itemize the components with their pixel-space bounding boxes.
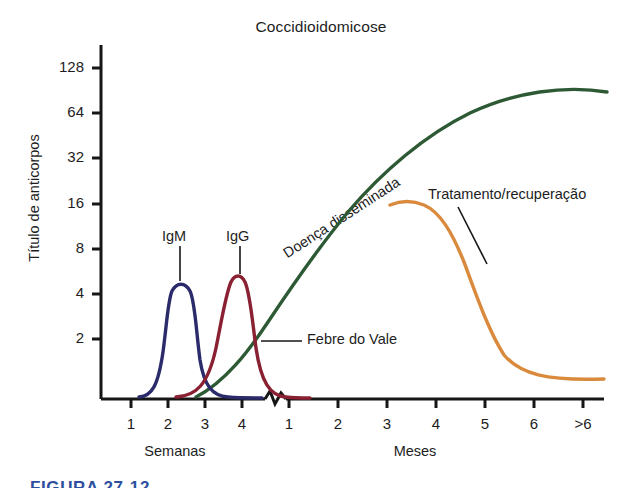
plot-area (0, 0, 642, 488)
curve-treatment (390, 201, 604, 379)
curve-igm (139, 284, 262, 398)
figure-caption-partial: FIGURA 27-12 (30, 478, 150, 488)
figure-root: Coccidioidomicose Título de anticorpos 1… (0, 0, 642, 488)
